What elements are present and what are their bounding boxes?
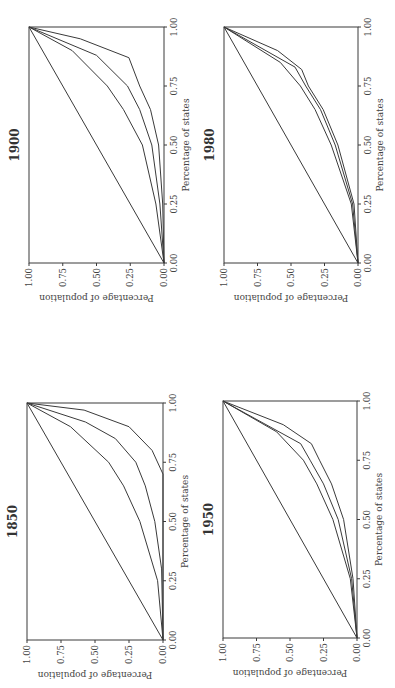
y-tick-label: 0.50 — [286, 268, 296, 287]
y-axis-label: Percentage of population — [39, 293, 154, 303]
x-tick-label: 0.75 — [168, 453, 178, 472]
x-tick-label: 0.50 — [362, 510, 372, 529]
x-tick-label: 0.50 — [168, 512, 178, 531]
x-tick-label: 0.50 — [363, 136, 373, 155]
y-tick-label: 1.00 — [218, 643, 228, 662]
x-tick-label: 0.75 — [362, 451, 372, 470]
x-axis-label: Percentage of states — [181, 98, 191, 192]
equality-line — [223, 401, 357, 638]
x-tick-label: 0.25 — [362, 569, 372, 588]
y-tick-label: 0.75 — [58, 268, 68, 287]
panel-title: 1950 — [202, 503, 216, 536]
y-tick-label: 0.75 — [56, 645, 66, 664]
y-axis-label: Percentage of population — [232, 668, 347, 678]
x-tick-label: 1.00 — [168, 394, 178, 413]
y-tick-label: 1.00 — [24, 268, 34, 287]
x-tick-label: 0.75 — [169, 77, 179, 96]
y-tick-label: 0.25 — [319, 643, 329, 662]
y-tick-label: 0.25 — [125, 268, 135, 287]
panel-title: 1980 — [203, 128, 217, 161]
y-tick-label: 0.50 — [90, 645, 100, 664]
equality-line — [27, 403, 163, 640]
x-axis-label: Percentage of states — [375, 98, 385, 192]
x-axis-label: Percentage of states — [180, 475, 190, 569]
x-tick-label: 0.75 — [363, 77, 373, 96]
panel-1900: 0.000.000.250.250.500.500.750.751.001.00… — [8, 18, 191, 303]
y-tick-label: 0.00 — [159, 268, 169, 287]
x-tick-label: 0.25 — [363, 195, 373, 214]
x-tick-label: 1.00 — [363, 18, 373, 37]
y-tick-label: 0.50 — [285, 643, 295, 662]
x-tick-label: 0.00 — [363, 254, 373, 273]
equality-line — [29, 27, 164, 263]
y-tick-label: 0.75 — [253, 268, 263, 287]
y-tick-label: 1.00 — [219, 268, 229, 287]
y-tick-label: 0.00 — [353, 268, 363, 287]
y-tick-label: 0.25 — [320, 268, 330, 287]
x-tick-label: 1.00 — [362, 392, 372, 411]
rotated-figure-group: 0.000.000.250.250.500.500.750.751.001.00… — [6, 18, 385, 680]
x-tick-label: 0.25 — [169, 195, 179, 214]
x-tick-label: 0.00 — [168, 631, 178, 650]
panel-1950: 0.000.000.250.250.500.500.750.751.001.00… — [202, 392, 384, 678]
y-tick-label: 0.00 — [158, 645, 168, 664]
lorenz-curve-figure: 0.000.000.250.250.500.500.750.751.001.00… — [0, 0, 395, 688]
x-axis-label: Percentage of states — [374, 473, 384, 567]
y-tick-label: 1.00 — [22, 645, 32, 664]
y-tick-label: 0.50 — [92, 268, 102, 287]
y-tick-label: 0.75 — [252, 643, 262, 662]
panel-1980: 0.000.000.250.250.500.500.750.751.001.00… — [203, 18, 385, 303]
y-axis-label: Percentage of population — [233, 293, 348, 303]
panel-title: 1900 — [8, 128, 22, 161]
x-tick-label: 1.00 — [169, 18, 179, 37]
x-tick-label: 0.00 — [362, 629, 372, 648]
panel-title: 1850 — [6, 505, 20, 538]
y-tick-label: 0.00 — [352, 643, 362, 662]
panel-1850: 0.000.000.250.250.500.500.750.751.001.00… — [6, 394, 190, 680]
x-tick-label: 0.25 — [168, 571, 178, 590]
y-tick-label: 0.25 — [124, 645, 134, 664]
x-tick-label: 0.00 — [169, 254, 179, 273]
x-tick-label: 0.50 — [169, 136, 179, 155]
y-axis-label: Percentage of population — [37, 670, 152, 680]
